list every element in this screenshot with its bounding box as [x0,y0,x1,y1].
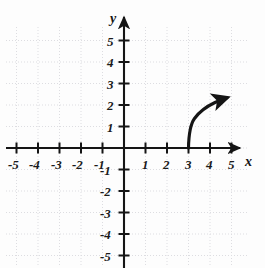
plotted-curve [0,0,265,268]
y-tick-label-2: 2 [107,99,114,112]
x-tick-label-neg2: -2 [72,158,83,171]
x-tick-label-neg5: -5 [8,158,19,171]
x-tick-label-4: 4 [206,158,213,171]
y-tick-label-4: 4 [107,56,114,69]
x-tick-label-neg3: -3 [51,158,62,171]
x-axis-label: x [245,155,252,169]
y-tick-label-neg3: -3 [100,207,111,220]
y-tick-label-5: 5 [107,35,114,48]
x-tick-label-neg4: -4 [29,158,40,171]
sqrt-curve-path [189,98,228,148]
coordinate-plane-figure: y x -5 -4 -3 -2 -1 1 2 3 4 5 5 4 3 2 1 -… [0,0,265,268]
x-tick-label-3: 3 [185,158,192,171]
x-tick-label-1: 1 [142,158,149,171]
x-tick-label-2: 2 [163,158,170,171]
y-tick-label-neg4: -4 [100,228,111,241]
x-tick-label-5: 5 [228,158,235,171]
y-tick-label-neg1: -1 [100,164,111,177]
y-tick-label-3: 3 [107,78,114,91]
y-axis-label: y [110,12,116,26]
y-tick-label-1: 1 [107,121,114,134]
y-tick-label-neg5: -5 [100,250,111,263]
y-tick-label-neg2: -2 [100,185,111,198]
